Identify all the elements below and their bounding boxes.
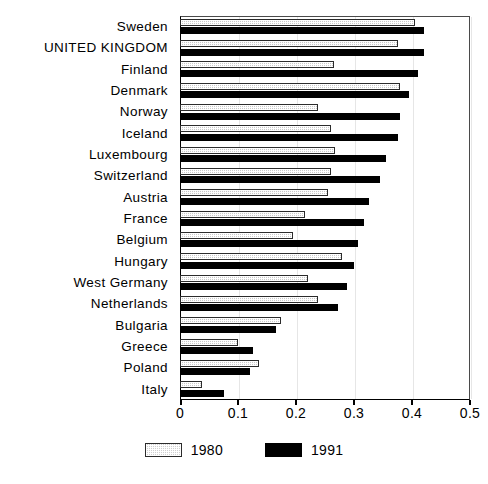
bar-luxembourg-1991 [180,155,386,162]
y-axis-label-hungary: Hungary [0,251,174,272]
x-tick-label-0.5: 0.5 [460,405,480,421]
bar-row [180,379,470,400]
legend-item-1991: 1991 [265,442,343,458]
bar-greece-1991 [180,347,253,354]
bar-sweden-1991 [180,27,424,34]
bar-belgium-1991 [180,240,358,247]
bar-row [180,315,470,336]
bar-denmark-1980 [180,83,400,90]
bar-row [180,59,470,80]
bar-row [180,272,470,293]
bar-row [180,229,470,250]
bar-rows-container [180,16,470,400]
bar-west-germany-1991 [180,283,347,290]
bar-netherlands-1991 [180,304,338,311]
legend-item-1980: 1980 [145,442,223,458]
bar-austria-1991 [180,198,369,205]
bar-france-1991 [180,219,364,226]
bar-switzerland-1991 [180,176,380,183]
bar-denmark-1991 [180,91,409,98]
bar-row [180,293,470,314]
x-tick-label-0.1: 0.1 [228,405,248,421]
y-axis-label-bulgaria: Bulgaria [0,315,174,336]
bar-finland-1980 [180,61,334,68]
y-axis-label-greece: Greece [0,336,174,357]
legend-label-1980: 1980 [191,442,223,458]
y-axis-label-poland: Poland [0,357,174,378]
bar-hungary-1991 [180,262,354,269]
y-axis-label-belgium: Belgium [0,229,174,250]
legend-label-1991: 1991 [311,442,343,458]
bar-chart-figure: SwedenUNITED KINGDOMFinlandDenmarkNorway… [0,0,488,484]
y-axis-label-iceland: Iceland [0,123,174,144]
x-tick-label-0.4: 0.4 [402,405,422,421]
y-axis-label-sweden: Sweden [0,16,174,37]
bar-bulgaria-1991 [180,326,276,333]
y-axis-label-italy: Italy [0,379,174,400]
bar-poland-1980 [180,360,259,367]
bar-row [180,16,470,37]
bar-row [180,357,470,378]
y-axis-label-norway: Norway [0,101,174,122]
bar-norway-1991 [180,113,400,120]
y-axis-label-west-germany: West Germany [0,272,174,293]
bar-luxembourg-1980 [180,147,335,154]
bar-sweden-1980 [180,19,415,26]
legend-swatch-1980 [145,443,182,457]
bar-united-kingdom-1980 [180,40,398,47]
bar-iceland-1991 [180,134,398,141]
bar-row [180,101,470,122]
x-tick-label-0: 0 [176,405,184,421]
bar-row [180,123,470,144]
chart-legend: 19801991 [0,442,488,458]
bar-iceland-1980 [180,125,331,132]
bar-row [180,336,470,357]
grid-line [471,17,472,399]
bar-belgium-1980 [180,232,293,239]
bar-france-1980 [180,211,305,218]
bar-bulgaria-1980 [180,317,281,324]
y-axis-label-switzerland: Switzerland [0,165,174,186]
bar-hungary-1980 [180,253,342,260]
clipped-title [0,0,488,6]
bar-switzerland-1980 [180,168,331,175]
y-axis-label-austria: Austria [0,187,174,208]
y-axis-label-denmark: Denmark [0,80,174,101]
y-axis-category-labels: SwedenUNITED KINGDOMFinlandDenmarkNorway… [0,16,174,400]
bar-netherlands-1980 [180,296,318,303]
bar-italy-1980 [180,381,202,388]
x-axis-ticks: 00.10.20.30.40.5 [180,400,470,422]
x-tick-label-0.3: 0.3 [344,405,364,421]
bar-row [180,144,470,165]
bar-row [180,37,470,58]
y-axis-label-united-kingdom: UNITED KINGDOM [0,37,174,58]
bar-west-germany-1980 [180,275,308,282]
legend-swatch-1991 [265,443,302,457]
y-axis-label-luxembourg: Luxembourg [0,144,174,165]
bar-row [180,187,470,208]
y-axis-label-france: France [0,208,174,229]
y-axis-label-netherlands: Netherlands [0,293,174,314]
bar-greece-1980 [180,339,238,346]
bar-united-kingdom-1991 [180,49,424,56]
bar-row [180,208,470,229]
x-tick-label-0.2: 0.2 [286,405,306,421]
bar-row [180,165,470,186]
bar-norway-1980 [180,104,318,111]
bar-row [180,251,470,272]
bar-finland-1991 [180,70,418,77]
bar-row [180,80,470,101]
bar-austria-1980 [180,189,328,196]
bar-poland-1991 [180,368,250,375]
y-axis-label-finland: Finland [0,59,174,80]
bar-italy-1991 [180,390,224,397]
